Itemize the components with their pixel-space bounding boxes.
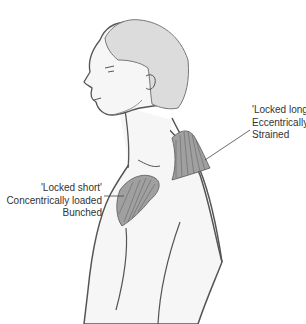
- label-locked-short-state: Bunched: [6, 207, 102, 220]
- anatomy-illustration: [0, 0, 306, 324]
- leader-line-locked-long: [205, 130, 250, 160]
- trapezius-muscle: [172, 131, 210, 180]
- label-locked-short-load: Concentrically loaded: [6, 195, 102, 208]
- label-locked-long: 'Locked long' Eccentrically loaded Strai…: [252, 104, 306, 142]
- label-locked-long-title: 'Locked long': [252, 104, 306, 117]
- label-locked-short: 'Locked short' Concentrically loaded Bun…: [6, 182, 102, 220]
- label-locked-long-state: Strained: [252, 129, 306, 142]
- label-locked-long-load: Eccentrically loaded: [252, 117, 306, 130]
- label-locked-short-title: 'Locked short': [6, 182, 102, 195]
